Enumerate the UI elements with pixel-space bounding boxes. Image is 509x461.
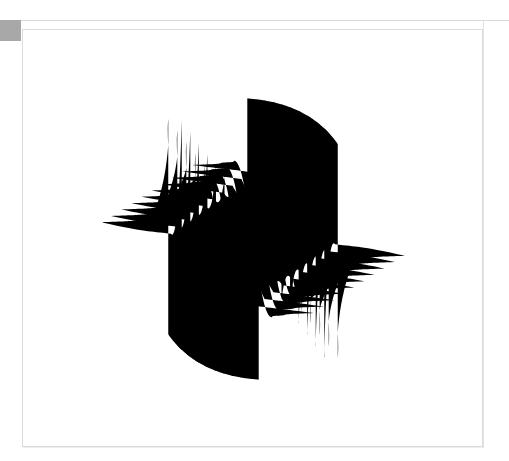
frame-bottom-shadow: [23, 447, 483, 448]
artwork-canvas-frame: [22, 29, 483, 447]
top-rule-line: [21, 20, 509, 21]
artwork-stage: [23, 30, 484, 448]
corner-marker-square: [0, 20, 21, 41]
stripe-arm-lower: [324, 89, 405, 359]
screenshot-viewport: [0, 0, 509, 461]
stripe-arm-upper: [101, 119, 182, 389]
stripe-group: [101, 89, 405, 389]
stripe-arm-upper: [111, 130, 190, 389]
stripe-arm-lower: [316, 89, 395, 348]
op-art-striped-wave-figure: [23, 30, 484, 448]
